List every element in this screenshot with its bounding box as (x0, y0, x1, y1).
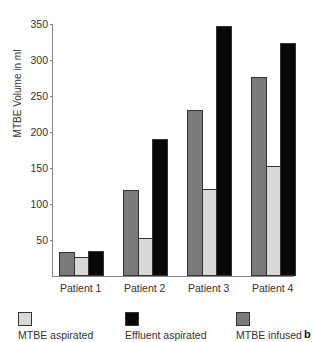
bar-mtbe-infused-patient-3 (187, 110, 203, 276)
x-category-label: Patient 2 (113, 282, 177, 294)
legend-swatch-mtbe-aspirated (18, 312, 32, 326)
y-axis-line (52, 24, 53, 276)
y-tick-label: 50 (24, 235, 48, 245)
y-tick-mark (50, 240, 53, 241)
y-tick-label: 200 (24, 127, 48, 137)
y-tick-label: 350 (24, 19, 48, 29)
legend-swatch-mtbe-infused (236, 312, 250, 326)
bar-effluent-aspirated-patient-4 (280, 43, 296, 276)
y-tick-label: 100 (24, 199, 48, 209)
y-tick-mark (50, 60, 53, 61)
x-category-label: Patient 4 (241, 282, 305, 294)
bar-mtbe-aspirated-patient-2 (138, 238, 154, 276)
legend-label: Effluent aspirated (125, 329, 207, 341)
y-tick-mark (50, 132, 53, 133)
y-tick-mark (50, 204, 53, 205)
panel-label: b (304, 328, 311, 340)
y-tick-label: 300 (24, 55, 48, 65)
legend-label: MTBE infused (236, 329, 302, 341)
bar-mtbe-infused-patient-1 (59, 252, 75, 276)
y-tick-mark (50, 96, 53, 97)
bar-mtbe-aspirated-patient-1 (74, 257, 90, 276)
x-category-label: Patient 1 (49, 282, 113, 294)
y-tick-mark (50, 24, 53, 25)
x-axis-line (52, 276, 294, 277)
legend-label: MTBE aspirated (18, 329, 93, 341)
x-category-label: Patient 3 (177, 282, 241, 294)
bar-mtbe-aspirated-patient-3 (202, 189, 218, 276)
bar-mtbe-aspirated-patient-4 (266, 166, 282, 276)
bar-mtbe-infused-patient-4 (251, 77, 267, 276)
bar-effluent-aspirated-patient-2 (152, 139, 168, 276)
y-tick-label: 250 (24, 91, 48, 101)
bar-mtbe-infused-patient-2 (123, 190, 139, 276)
y-tick-label: 150 (24, 163, 48, 173)
bar-effluent-aspirated-patient-1 (88, 251, 104, 276)
legend-swatch-effluent-aspirated (125, 312, 139, 326)
y-tick-mark (50, 168, 53, 169)
y-axis-label: MTBE Volume in ml (12, 39, 23, 149)
bar-effluent-aspirated-patient-3 (216, 26, 232, 276)
